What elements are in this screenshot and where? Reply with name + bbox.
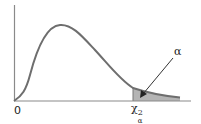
origin-label: 0	[14, 104, 21, 117]
tail-arrow	[143, 58, 173, 94]
chi-square-diagram	[0, 0, 201, 124]
tail-area-label: α	[174, 45, 181, 58]
chi-square-curve	[14, 25, 180, 101]
critical-value-label: χ 2 α	[131, 103, 144, 114]
chi-symbol: χ	[131, 102, 138, 115]
critical-subscript: α	[138, 116, 143, 124]
